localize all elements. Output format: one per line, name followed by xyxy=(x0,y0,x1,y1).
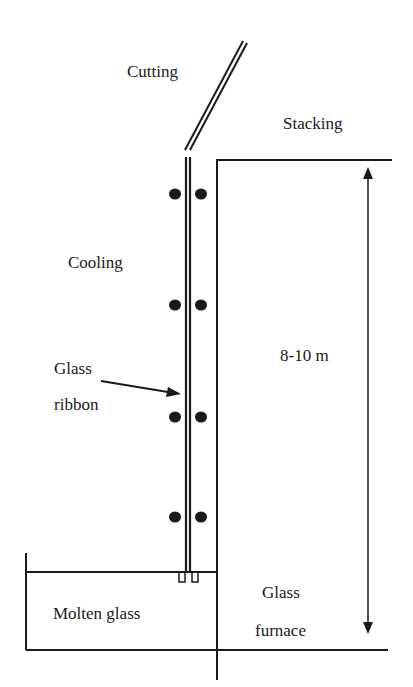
roller xyxy=(195,300,207,311)
arrow-up-icon xyxy=(363,167,373,179)
roller xyxy=(169,189,181,200)
roller xyxy=(195,512,207,523)
label-glass-furnace-2: furnace xyxy=(255,621,306,640)
roller xyxy=(169,512,181,523)
roller xyxy=(169,300,181,311)
debiteuse-left xyxy=(179,572,185,582)
label-stacking: Stacking xyxy=(283,114,343,133)
debiteuse-right xyxy=(192,572,198,582)
roller xyxy=(195,412,207,423)
label-glass-ribbon-2: ribbon xyxy=(54,395,99,414)
rollers xyxy=(169,189,207,523)
label-glass-ribbon-1: Glass xyxy=(54,359,92,378)
ribbon-pointer-arrow xyxy=(101,381,174,393)
label-cutting: Cutting xyxy=(127,62,179,81)
glass-ribbon xyxy=(186,157,190,573)
roller xyxy=(169,412,181,423)
roller xyxy=(195,189,207,200)
label-glass-furnace-1: Glass xyxy=(262,583,300,602)
arrow-head-icon xyxy=(166,387,181,397)
label-height: 8-10 m xyxy=(280,346,329,365)
arrow-down-icon xyxy=(363,622,373,634)
furnace-tank xyxy=(26,553,388,650)
label-cooling: Cooling xyxy=(68,253,123,272)
tower-wall xyxy=(217,160,392,680)
glass-drawing-diagram: Cutting Stacking Cooling Glass ribbon 8-… xyxy=(0,0,413,687)
label-molten-glass: Molten glass xyxy=(53,604,140,623)
cut-ribbon xyxy=(185,41,247,150)
